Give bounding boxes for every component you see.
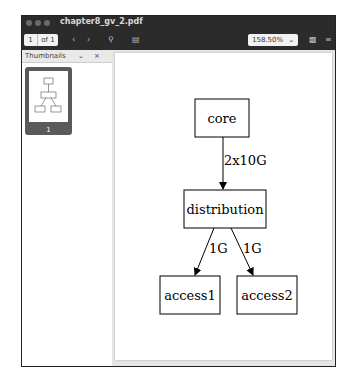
close-window-button[interactable] [26, 20, 32, 26]
page-thumbnail[interactable]: 1 [25, 67, 72, 135]
page-number-input[interactable]: 1 [24, 34, 38, 46]
page-selector[interactable]: 1 of 1 [24, 34, 58, 46]
page-count: of 1 [38, 34, 58, 46]
zoom-level-value: 158.50% [252, 36, 283, 44]
hamburger-menu-icon[interactable]: ≡ [325, 34, 332, 46]
document-view[interactable]: core 2x10G distribution 1G 1G access1 ac… [112, 50, 335, 366]
chevron-right-icon[interactable]: › [87, 34, 90, 46]
zoom-level-select[interactable]: 158.50% ⌄ [248, 34, 298, 46]
edge-distribution-access2-label: 1G [243, 241, 262, 256]
node-access1-label: access1 [164, 288, 216, 303]
minimize-window-button[interactable] [35, 20, 41, 26]
node-access2-label: access2 [241, 288, 293, 303]
pdf-viewer-window: chapter8_gv_2.pdf 1 of 1 ‹ › ⚲ ▤ 158.50%… [21, 15, 336, 367]
network-diagram: core 2x10G distribution 1G 1G access1 ac… [115, 53, 332, 360]
sidebar-title[interactable]: Thumbnails [25, 52, 66, 60]
sidebar: Thumbnails ⌄ × 1 [22, 50, 113, 366]
maximize-window-button[interactable] [44, 20, 50, 26]
edge-core-distribution-label: 2x10G [224, 153, 267, 168]
search-icon[interactable]: ⚲ [108, 34, 114, 46]
chevron-down-icon: ⌄ [288, 34, 294, 46]
pdf-page: core 2x10G distribution 1G 1G access1 ac… [115, 53, 332, 360]
chevron-down-icon[interactable]: ⌄ [78, 50, 84, 62]
thumbnail-preview [29, 71, 68, 122]
window-title: chapter8_gv_2.pdf [60, 17, 143, 26]
chevron-left-icon[interactable]: ‹ [72, 34, 75, 46]
node-core-label: core [207, 111, 236, 126]
toolbar: 1 of 1 ‹ › ⚲ ▤ 158.50% ⌄ ▩ ≡ [22, 30, 335, 50]
thumbnail-page-number: 1 [25, 126, 72, 134]
save-icon[interactable]: ▩ [309, 34, 317, 46]
close-icon[interactable]: × [94, 50, 100, 62]
title-bar: chapter8_gv_2.pdf [22, 16, 335, 30]
node-distribution-label: distribution [186, 202, 264, 217]
sidebar-header: Thumbnails ⌄ × [22, 50, 112, 63]
document-icon[interactable]: ▤ [132, 34, 140, 46]
edge-distribution-access1-label: 1G [209, 241, 228, 256]
